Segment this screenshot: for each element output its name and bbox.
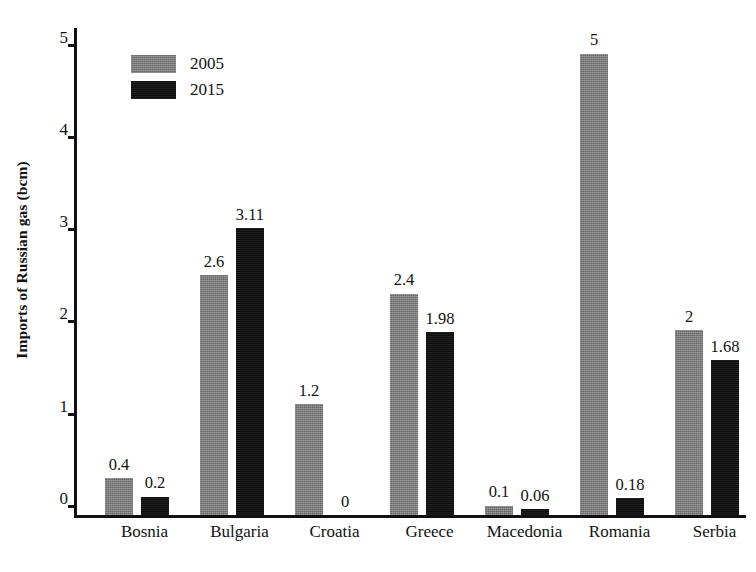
y-axis-title-text: Imports of Russian gas (bcm): [13, 161, 31, 358]
legend-label: 2015: [190, 80, 224, 100]
bar-value-label: 0: [313, 494, 377, 511]
legend-swatch: [131, 55, 176, 73]
bar-value-label: 0.2: [123, 475, 187, 492]
y-tick-mark: [68, 320, 76, 323]
bar-group: 1.20: [275, 28, 370, 515]
legend-item[interactable]: 2015: [131, 77, 224, 103]
y-tick-label: 0: [34, 490, 68, 507]
legend-item[interactable]: 2005: [131, 51, 224, 77]
y-tick-label: 1: [34, 397, 68, 414]
y-tick-label: 3: [34, 213, 68, 230]
bar-group: 21.68: [655, 28, 750, 515]
y-axis-tick: 2: [34, 313, 68, 330]
bar[interactable]: [200, 275, 228, 515]
y-tick-mark: [68, 413, 76, 416]
bar-value-label: 1.68: [693, 339, 756, 356]
x-axis-line: [74, 515, 746, 518]
y-tick-mark: [68, 505, 76, 508]
bar[interactable]: [426, 332, 454, 515]
bar[interactable]: [485, 506, 513, 515]
bar-value-label: 1.2: [277, 383, 341, 400]
bar-value-label: 0.06: [503, 488, 567, 505]
bar-chart: Imports of Russian gas (bcm) 012345 0.40…: [0, 0, 756, 572]
legend-swatch: [131, 81, 176, 99]
bar-group: 50.18: [560, 28, 655, 515]
bar[interactable]: [711, 360, 739, 515]
y-tick-label: 4: [34, 120, 68, 137]
y-axis-tick: 0: [34, 498, 68, 515]
y-tick-mark: [68, 44, 76, 47]
y-axis-tick: 5: [34, 37, 68, 54]
y-axis-tick: 3: [34, 221, 68, 238]
chart-legend: 20052015: [131, 51, 224, 103]
legend-label: 2005: [190, 54, 224, 74]
bar-value-label: 0.18: [598, 477, 662, 494]
bar-value-label: 3.11: [218, 207, 282, 224]
bar[interactable]: [580, 54, 608, 515]
bar-value-label: 1.98: [408, 311, 472, 328]
y-axis-tick: 4: [34, 129, 68, 146]
y-tick-label: 5: [34, 28, 68, 45]
bar[interactable]: [236, 228, 264, 515]
bar-value-label: 2: [657, 309, 721, 326]
x-axis-labels: BosniaBulgariaCroatiaGreeceMacedoniaRoma…: [74, 522, 756, 552]
bar-value-label: 5: [562, 32, 626, 49]
y-axis-tick: 1: [34, 406, 68, 423]
bar[interactable]: [521, 509, 549, 515]
x-axis-label: Serbia: [645, 522, 756, 542]
bar-value-label: 0.4: [87, 457, 151, 474]
y-tick-mark: [68, 228, 76, 231]
bar[interactable]: [141, 497, 169, 515]
y-tick-label: 2: [34, 305, 68, 322]
bar[interactable]: [675, 330, 703, 515]
bar[interactable]: [616, 498, 644, 515]
y-tick-mark: [68, 136, 76, 139]
bar-group: 2.41.98: [370, 28, 465, 515]
y-axis-title: Imports of Russian gas (bcm): [4, 0, 40, 520]
bar-value-label: 2.4: [372, 272, 436, 289]
bar-group: 0.10.06: [465, 28, 560, 515]
